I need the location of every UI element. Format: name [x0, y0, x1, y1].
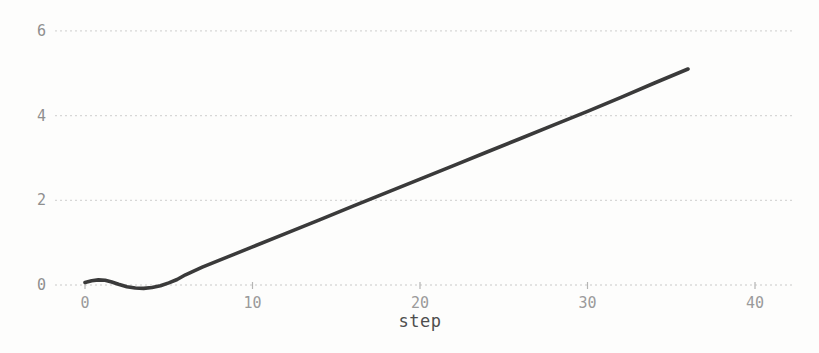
y-tick-label: 4 — [0, 108, 46, 123]
x-tick-label: 40 — [725, 296, 785, 311]
x-tick-label: 30 — [558, 296, 618, 311]
x-tick-label: 0 — [55, 296, 115, 311]
y-tick-label: 2 — [0, 193, 46, 208]
x-tick-label: 20 — [390, 296, 450, 311]
x-axis-title: step — [85, 312, 755, 330]
y-tick-label: 6 — [0, 23, 46, 38]
x-tick-label: 10 — [223, 296, 283, 311]
data-series-line — [85, 69, 688, 288]
y-tick-label: 0 — [0, 278, 46, 293]
line-chart-panel: step 0246010203040 — [0, 0, 819, 353]
